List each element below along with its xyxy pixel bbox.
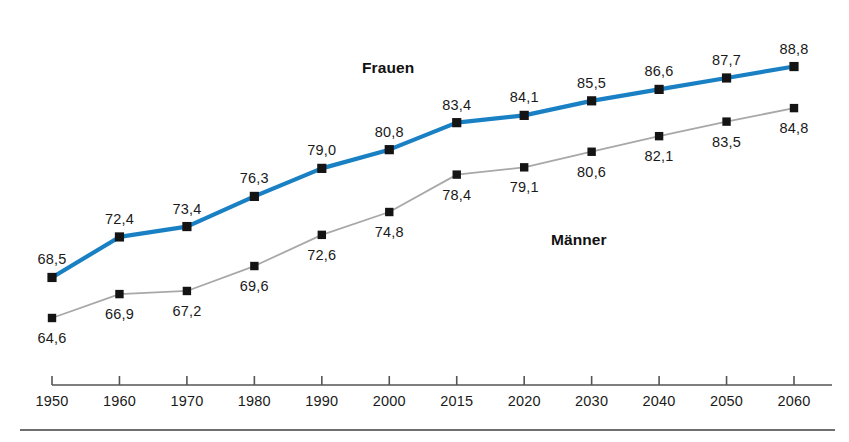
x-tick-label: 1970 — [170, 393, 203, 409]
data-point-marker — [789, 62, 798, 71]
x-tick-label: 2020 — [508, 393, 541, 409]
data-value-label: 88,8 — [779, 41, 808, 57]
data-point-marker — [115, 290, 123, 298]
data-point-marker — [318, 231, 326, 239]
data-point-marker — [182, 222, 191, 231]
data-point-marker — [115, 232, 124, 241]
data-point-marker — [587, 148, 595, 156]
data-point-marker — [520, 163, 528, 171]
x-tick-label: 2030 — [575, 393, 608, 409]
x-tick-label: 2040 — [643, 393, 676, 409]
data-value-label: 67,2 — [172, 303, 201, 319]
x-axis — [52, 376, 832, 385]
x-tick-label: 2060 — [777, 393, 810, 409]
data-value-label: 87,7 — [712, 52, 741, 68]
data-point-marker — [385, 145, 394, 154]
data-point-marker — [183, 287, 191, 295]
data-point-marker — [47, 273, 56, 282]
line-path-frauen — [52, 67, 794, 278]
data-value-label: 69,6 — [240, 278, 269, 294]
data-point-marker — [452, 118, 461, 127]
data-value-label: 78,4 — [442, 187, 471, 203]
data-point-marker — [250, 192, 259, 201]
data-value-label: 86,6 — [645, 63, 674, 79]
data-point-marker — [520, 111, 529, 120]
x-tick-label: 2000 — [373, 393, 406, 409]
data-point-marker — [317, 164, 326, 173]
data-value-label: 64,6 — [37, 330, 66, 346]
data-value-label: 74,8 — [375, 224, 404, 240]
data-value-label: 72,4 — [105, 211, 134, 227]
data-value-label: 80,8 — [375, 124, 404, 140]
x-tick-label: 1950 — [35, 393, 68, 409]
data-point-marker — [250, 262, 258, 270]
x-axis-ticks — [52, 376, 794, 385]
x-tick-label: 2050 — [710, 393, 743, 409]
data-value-label: 83,4 — [442, 97, 471, 113]
data-point-marker — [722, 73, 731, 82]
data-value-label: 82,1 — [645, 148, 674, 164]
x-tick-label: 2015 — [440, 393, 473, 409]
series-annotation-maenner: Männer — [551, 231, 607, 249]
data-value-label: 84,8 — [779, 120, 808, 136]
data-value-label: 72,6 — [307, 247, 336, 263]
data-point-marker — [48, 314, 56, 322]
bottom-divider — [20, 429, 835, 431]
series-annotation-frauen: Frauen — [362, 59, 414, 77]
data-value-label: 66,9 — [105, 306, 134, 322]
x-tick-label: 1960 — [103, 393, 136, 409]
data-value-label: 85,5 — [577, 75, 606, 91]
line-path-maenner — [52, 108, 794, 318]
data-point-marker — [790, 104, 798, 112]
markers-frauen — [47, 62, 798, 282]
data-value-label: 83,5 — [712, 134, 741, 150]
data-value-label: 84,1 — [510, 89, 539, 105]
x-tick-label: 1980 — [238, 393, 271, 409]
data-value-label: 79,0 — [307, 142, 336, 158]
x-tick-label: 1990 — [305, 393, 338, 409]
data-value-label: 80,6 — [577, 164, 606, 180]
data-point-marker — [654, 85, 663, 94]
data-point-marker — [722, 117, 730, 125]
data-value-label: 76,3 — [240, 170, 269, 186]
data-point-marker — [655, 132, 663, 140]
data-value-label: 79,1 — [510, 179, 539, 195]
data-value-label: 73,4 — [172, 201, 201, 217]
life-expectancy-chart: Frauen Männer 68,572,473,476,379,080,883… — [0, 0, 849, 442]
data-point-marker — [587, 96, 596, 105]
data-point-marker — [385, 208, 393, 216]
series-line-frauen — [47, 62, 798, 282]
data-value-label: 68,5 — [37, 251, 66, 267]
data-point-marker — [453, 170, 461, 178]
